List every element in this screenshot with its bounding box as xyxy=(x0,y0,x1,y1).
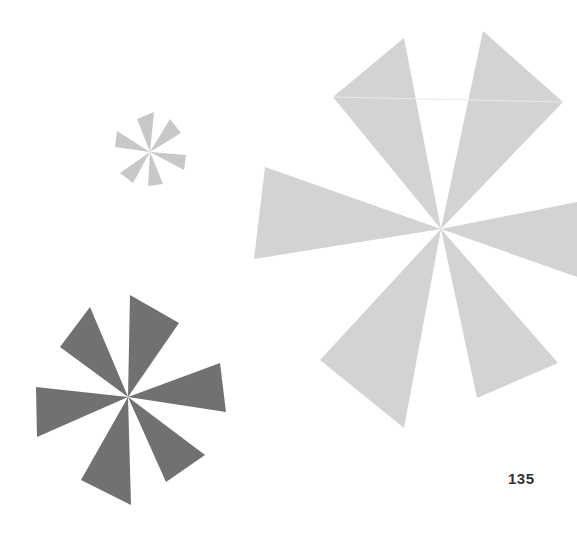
large-asterisk xyxy=(254,31,577,428)
page-number: 135 xyxy=(508,470,535,487)
illustration xyxy=(0,0,577,535)
small-asterisk xyxy=(115,112,186,186)
dark-asterisk xyxy=(36,295,226,505)
